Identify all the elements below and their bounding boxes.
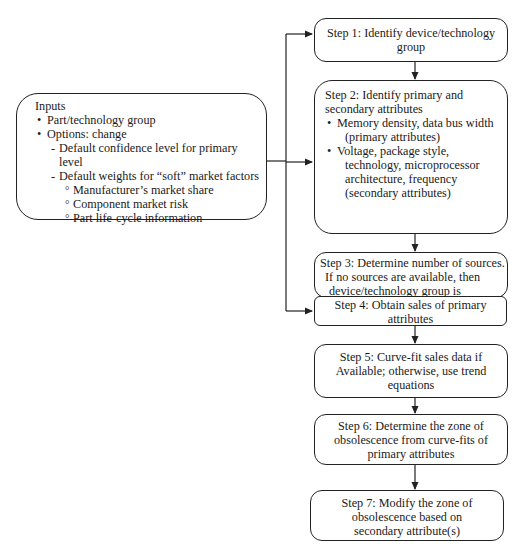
step-4-line: attributes: [321, 312, 500, 326]
step-5-line: Available; otherwise, use trend: [321, 364, 501, 378]
input-subitem: Part life-cycle information: [35, 211, 260, 225]
step-3-line: If no sources are available, then: [320, 270, 505, 284]
step-5-box: Step 5: Curve-fit sales data if Availabl…: [314, 344, 508, 398]
input-subitem: Manufacturer’s market share: [35, 183, 260, 197]
step-6-box: Step 6: Determine the zone of obsolescen…: [314, 414, 508, 465]
step-2-line: Step 2: Identify primary and: [325, 88, 503, 102]
step-5-line: equations: [321, 378, 501, 392]
step-4-box: Step 4: Obtain sales of primary attribut…: [314, 296, 507, 326]
step-1-line: group: [321, 40, 501, 54]
step-1-box: Step 1: Identify device/technology group: [314, 18, 508, 62]
step-2-bullet: Memory density, data bus width: [325, 116, 503, 130]
step-5-line: Step 5: Curve-fit sales data if: [321, 350, 501, 364]
step-6-line: primary attributes: [321, 447, 501, 461]
step-2-bullet-cont: technology, microprocessor: [325, 158, 503, 172]
inputs-box: Inputs Part/technology group Options: ch…: [16, 93, 267, 220]
input-bullet: Options: change: [35, 127, 260, 141]
step-2-bullet-cont: (primary attributes): [325, 130, 503, 144]
input-bullet: Part/technology group: [35, 113, 260, 127]
step-3-line: Step 3: Determine number of sources.: [320, 256, 505, 270]
input-option: Default weights for “soft” market factor…: [35, 169, 260, 183]
step-2-bullet-cont: architecture, frequency: [325, 172, 503, 186]
step-1-line: Step 1: Identify device/technology: [321, 26, 501, 40]
step-7-line: secondary attribute(s): [317, 524, 497, 538]
step-6-line: obsolescence from curve-fits of: [321, 433, 501, 447]
inputs-title: Inputs: [35, 99, 260, 113]
step-2-bullet-cont: (secondary attributes): [325, 186, 503, 200]
input-subitem: Component market risk: [35, 197, 260, 211]
step-2-bullet: Voltage, package style,: [325, 144, 503, 158]
step-6-line: Step 6: Determine the zone of: [321, 419, 501, 433]
step-2-line: secondary attributes: [325, 102, 503, 116]
input-option: Default confidence level for primary lev…: [35, 141, 260, 169]
step-7-box: Step 7: Modify the zone of obsolescence …: [310, 490, 504, 541]
step-7-line: Step 7: Modify the zone of: [317, 496, 497, 510]
step-4-line: Step 4: Obtain sales of primary: [321, 298, 500, 312]
step-3-box: Step 3: Determine number of sources. If …: [314, 252, 508, 298]
step-2-box: Step 2: Identify primary and secondary a…: [314, 80, 508, 234]
step-7-line: obsolescence based on: [317, 510, 497, 524]
